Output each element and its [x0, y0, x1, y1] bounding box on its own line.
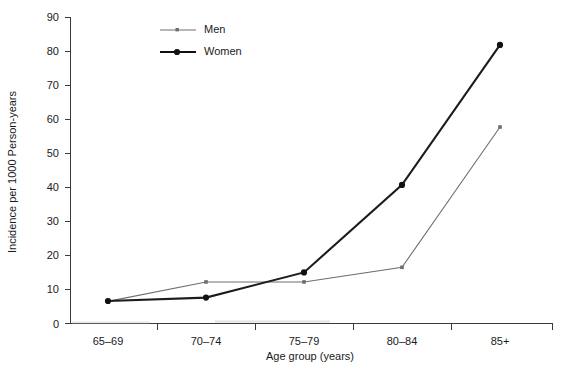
- y-axis-title: Incidence per 1000 Person-years: [6, 90, 18, 253]
- legend-label-men: Men: [204, 23, 225, 35]
- y-tick-label-20: 20: [47, 249, 59, 261]
- legend-marker-women: [174, 49, 180, 55]
- legend-entry-men: Men: [160, 23, 225, 35]
- marker-men-1: [204, 280, 208, 284]
- x-tick-label-4: 85+: [491, 335, 510, 347]
- y-tick-label-10: 10: [47, 283, 59, 295]
- incidence-by-age-line-chart: 0102030405060708090 65–6970–7475–7980–84…: [0, 0, 561, 376]
- legend-marker-men: [176, 28, 179, 31]
- x-axis-title: Age group (years): [266, 350, 354, 362]
- marker-women-2: [301, 269, 307, 275]
- series-markers-men: [106, 125, 502, 303]
- series-markers-women: [105, 42, 503, 304]
- x-tick-label-1: 70–74: [191, 335, 222, 347]
- x-tick-label-2: 75–79: [289, 335, 320, 347]
- x-axis-category-labels: 65–6970–7475–7980–8485+: [93, 335, 510, 347]
- y-tick-label-0: 0: [53, 318, 59, 330]
- marker-women-4: [497, 42, 503, 48]
- y-tick-label-90: 90: [47, 11, 59, 23]
- marker-men-3: [400, 266, 404, 270]
- marker-women-0: [105, 298, 111, 304]
- y-axis-ticks: 0102030405060708090: [47, 11, 71, 330]
- marker-men-4: [498, 125, 502, 129]
- series-line-women: [108, 45, 500, 301]
- chart-container: 0102030405060708090 65–6970–7475–7980–84…: [0, 0, 561, 376]
- x-tick-label-3: 80–84: [387, 335, 418, 347]
- legend-label-women: Women: [204, 45, 242, 57]
- marker-women-3: [399, 182, 405, 188]
- y-tick-label-80: 80: [47, 45, 59, 57]
- y-tick-label-60: 60: [47, 113, 59, 125]
- y-tick-label-40: 40: [47, 181, 59, 193]
- y-tick-label-70: 70: [47, 79, 59, 91]
- x-tick-label-0: 65–69: [93, 335, 124, 347]
- y-tick-label-50: 50: [47, 147, 59, 159]
- chart-legend: Men Women: [160, 23, 242, 57]
- legend-entry-women: Women: [160, 45, 242, 57]
- marker-women-1: [203, 295, 209, 301]
- x-axis-ticks: [157, 324, 553, 330]
- marker-men-2: [302, 280, 306, 284]
- y-tick-label-30: 30: [47, 215, 59, 227]
